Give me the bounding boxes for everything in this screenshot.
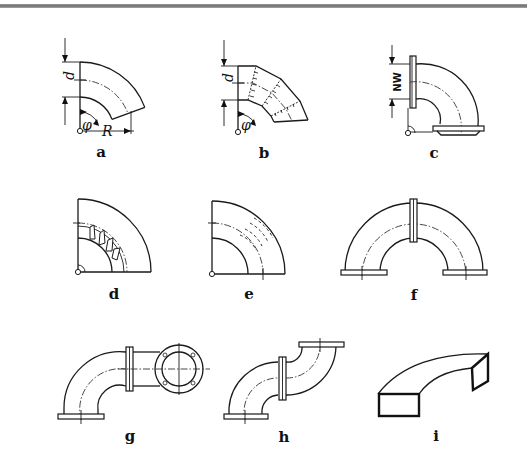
panel-c: NW c [389,45,484,162]
panel-label-f: f [411,286,419,304]
angle-phi-label-b: φ [241,117,251,133]
panel-i: i [378,354,488,445]
panel-e: e [208,201,285,303]
panel-d: d [73,199,151,303]
pipe-bend-diagram: d φ R a [0,0,527,474]
panel-f: f [341,199,487,304]
panel-label-c: c [429,144,438,162]
panel-label-i: i [433,427,439,445]
panel-label-d: d [109,285,120,303]
panel-label-g: g [125,427,136,445]
panel-label-h: h [279,428,290,446]
panel-label-e: e [244,285,254,303]
dimension-d-label-b: d [220,73,236,82]
nominal-width-label: NW [392,72,403,91]
panel-h: h [224,338,344,446]
panel-g: g [58,343,210,445]
panel-label-b: b [259,144,270,162]
panel-b: d φ b [220,40,308,162]
panel-a: d φ R a [61,38,145,161]
radius-R-label: R [101,123,113,139]
panel-label-a: a [96,143,106,161]
dimension-d-label: d [61,71,77,80]
